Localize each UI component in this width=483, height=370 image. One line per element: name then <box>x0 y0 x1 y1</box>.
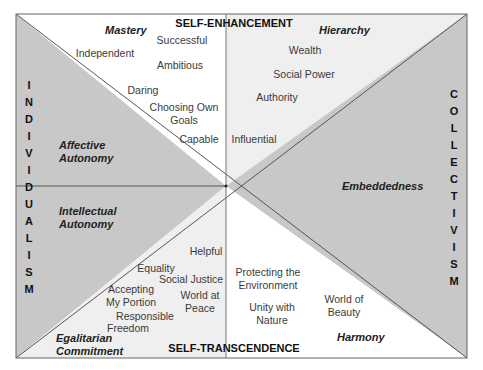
value-influential: Influential <box>232 133 277 146</box>
world-of-beauty-line-2: Beauty <box>325 306 364 319</box>
orientation-hierarchy: Hierarchy <box>319 24 370 37</box>
choosing-own-goals-line-2: Goals <box>150 114 219 127</box>
value-authority: Authority <box>256 91 297 104</box>
axis-right-label: COLLECTIVISM <box>447 86 461 290</box>
protecting-environment-line-1: Protecting the <box>236 266 301 279</box>
unity-with-nature-line-1: Unity with <box>249 301 295 314</box>
value-ambitious: Ambitious <box>157 59 203 72</box>
value-wealth: Wealth <box>289 44 322 57</box>
affective-autonomy-text: Affective Autonomy <box>59 139 119 165</box>
world-at-peace-line-2: Peace <box>181 302 220 315</box>
value-accepting-my-portion: Accepting My Portion <box>106 283 156 308</box>
orientation-affective-autonomy: Affective Autonomy <box>59 139 119 165</box>
value-choosing-own-goals: Choosing Own Goals <box>150 101 219 126</box>
value-responsible: Responsible <box>116 310 174 323</box>
axis-left-label: INDIVIDUALISM <box>22 77 36 298</box>
orientation-harmony: Harmony <box>337 331 385 344</box>
orientation-intellectual-autonomy: Intellectual Autonomy <box>59 205 129 231</box>
value-social-justice: Social Justice <box>159 273 223 286</box>
values-circumplex-diagram: SELF-ENHANCEMENT SELF-TRANSCENDENCE INDI… <box>0 0 483 370</box>
orientation-mastery: Mastery <box>105 24 147 37</box>
axis-bottom-label: SELF-TRANSCENDENCE <box>168 342 299 354</box>
center-point <box>225 185 228 188</box>
value-freedom: Freedom <box>107 322 149 335</box>
value-world-of-beauty: World of Beauty <box>325 293 364 318</box>
unity-with-nature-line-2: Nature <box>249 314 295 327</box>
value-social-power: Social Power <box>273 68 334 81</box>
choosing-own-goals-line-1: Choosing Own <box>150 101 219 114</box>
value-daring: Daring <box>128 84 159 97</box>
value-helpful: Helpful <box>190 245 223 258</box>
value-unity-with-nature: Unity with Nature <box>249 301 295 326</box>
value-protecting-the-environment: Protecting the Environment <box>236 266 301 291</box>
value-world-at-peace: World at Peace <box>181 289 220 314</box>
egalitarian-commitment-text: Egalitarian Commitment <box>56 332 126 358</box>
value-independent: Independent <box>76 47 134 60</box>
axis-top-label: SELF-ENHANCEMENT <box>175 17 292 29</box>
orientation-embeddedness: Embeddedness <box>342 180 423 193</box>
accepting-my-portion-line-2: My Portion <box>106 296 156 309</box>
world-at-peace-line-1: World at <box>181 289 220 302</box>
orientation-egalitarian-commitment: Egalitarian Commitment <box>56 332 126 358</box>
value-successful: Successful <box>157 34 208 47</box>
intellectual-autonomy-text: Intellectual Autonomy <box>59 205 129 231</box>
protecting-environment-line-2: Environment <box>236 279 301 292</box>
world-of-beauty-line-1: World of <box>325 293 364 306</box>
accepting-my-portion-line-1: Accepting <box>106 283 156 296</box>
value-capable: Capable <box>179 133 218 146</box>
